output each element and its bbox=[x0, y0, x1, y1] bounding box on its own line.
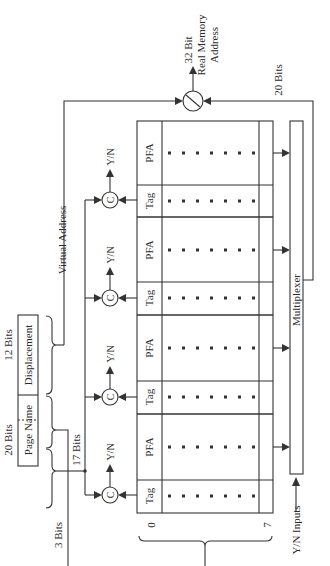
virtual-address-title: Virtual Address bbox=[56, 206, 68, 275]
compare-output-3: Y/N bbox=[105, 246, 116, 263]
displacement-field: Displacement bbox=[22, 325, 34, 385]
seventeen-bit-bus bbox=[83, 200, 87, 495]
yn-inputs-label: Y/N Inputs bbox=[290, 505, 302, 554]
bit-index-end: 7 bbox=[261, 522, 273, 528]
pfa-label-1: PFA bbox=[143, 437, 155, 456]
compare-output-4: Y/N bbox=[105, 148, 116, 165]
compare-output-1: Y/N bbox=[105, 443, 116, 460]
displacement-bits-label: 12 Bits bbox=[2, 329, 14, 360]
virtual-address-register: Virtual Address 12 Bits 20 Bits Displace… bbox=[2, 206, 85, 566]
page-name-bits-label: 20 Bits bbox=[2, 424, 14, 455]
real-address-output: 32 Bit Real Memory Address bbox=[182, 14, 220, 91]
pfa-label-4: PFA bbox=[143, 143, 155, 162]
output-label-line1: 32 Bit bbox=[182, 36, 194, 63]
tlb-table: PFA Tag PFA Tag PFA Tag PFA Tag bbox=[137, 121, 273, 566]
multiplexer: Multiplexer bbox=[290, 121, 303, 474]
page-name-field: Page Name bbox=[22, 405, 34, 456]
svg-text:C: C bbox=[105, 491, 116, 498]
bit-index-start: 0 bbox=[145, 522, 157, 528]
output-label-line2: Real Memory bbox=[195, 14, 207, 75]
concatenation-circle bbox=[183, 91, 203, 111]
svg-text:C: C bbox=[105, 294, 116, 301]
tag-label-2: Tag bbox=[143, 388, 155, 405]
seventeen-bit-brace bbox=[46, 449, 57, 508]
tag-label-3: Tag bbox=[143, 289, 155, 306]
three-bits-label: 3 Bits bbox=[52, 522, 64, 548]
pfa-label-2: PFA bbox=[143, 338, 155, 357]
compare-output-2: Y/N bbox=[105, 345, 116, 362]
comparator-4: C Y/N bbox=[85, 148, 137, 208]
svg-text:C: C bbox=[105, 196, 116, 203]
multiplexer-output-bits-label: 20 Bits bbox=[272, 64, 284, 95]
yn-inputs: Y/N Inputs bbox=[290, 477, 302, 555]
tag-label-1: Tag bbox=[143, 487, 155, 504]
comparator-1: C Y/N bbox=[85, 443, 137, 503]
svg-text:C: C bbox=[105, 393, 116, 400]
comparators: C Y/N C Y/N C bbox=[85, 148, 137, 503]
seventeen-bits-label: 17 Bits bbox=[70, 434, 82, 465]
three-bit-brace bbox=[46, 396, 57, 448]
comparator-2: C Y/N bbox=[85, 345, 137, 405]
pfa-label-3: PFA bbox=[143, 240, 155, 259]
displacement-brace bbox=[46, 316, 57, 394]
table-width-brace bbox=[139, 536, 272, 546]
tlb-address-translation-diagram: 32 Bit Real Memory Address 20 Bits Virtu… bbox=[0, 0, 330, 566]
tag-label-4: Tag bbox=[143, 192, 155, 209]
pfa-to-multiplexer-arrows bbox=[273, 149, 290, 451]
comparator-3: C Y/N bbox=[85, 246, 137, 306]
output-label-line3: Address bbox=[208, 27, 220, 63]
multiplexer-label: Multiplexer bbox=[290, 274, 302, 326]
